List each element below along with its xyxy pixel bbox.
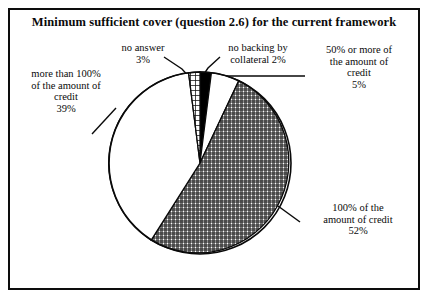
- pie-label-more-than-hundred: more than 100% of the amount of credit 3…: [14, 68, 118, 114]
- leader-line-hundred: [278, 206, 300, 222]
- pie-label-no-answer: no answer 3%: [104, 42, 182, 65]
- pie-label-hundred: 100% of the amount of credit 52%: [302, 202, 414, 237]
- chart-page: Minimum sufficient cover (question 2.6) …: [0, 0, 430, 300]
- pie-label-no-backing: no backing by collateral 2%: [212, 42, 304, 65]
- pie-label-fifty-or-more: 50% or more of the amount of credit 5%: [306, 44, 412, 90]
